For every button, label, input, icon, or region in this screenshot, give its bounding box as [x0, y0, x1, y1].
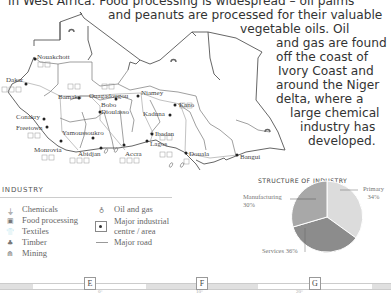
city-label-freetown: Freetown [16, 124, 42, 132]
city-label-yamoussoukro: Yamoussoukro [62, 129, 104, 137]
major-road-icon [96, 242, 108, 243]
pie-label-primary: Primary 34% [363, 185, 384, 200]
mining-icon: ⋒ [7, 250, 13, 258]
pie-label-manufacturing: Manufacturing 30% [243, 193, 282, 208]
city-label-niamey: Niamey [141, 89, 163, 97]
legend: INDUSTRY [0, 186, 172, 198]
industry-pie-chart [290, 180, 365, 255]
legend-item-mining: Mining [22, 248, 47, 258]
city-label-bangui: Bangui [240, 153, 260, 161]
textiles-icon: 👕 [6, 228, 15, 236]
longitude-tick: 0° [98, 289, 103, 294]
city-label-bamako: Bamako [58, 93, 81, 101]
city-label-kano: Kano [179, 101, 194, 109]
industrial-centre-icon [95, 221, 107, 232]
city-label-lagos: Lagos [150, 140, 167, 148]
legend-item-oil-gas: Oil and gas [114, 204, 153, 214]
grid-box-g: G [309, 277, 321, 290]
city-label-nouakchott: Nouakchott [37, 53, 70, 61]
longitude-tick: 10° [196, 289, 203, 294]
food-processing-icon: ▣ [7, 217, 14, 225]
grid-box-e: E [84, 277, 96, 290]
chemicals-icon: ⏚ [7, 206, 14, 216]
pie-label-services: Services 36% [262, 247, 298, 255]
legend-item-industrial-centre: Major industrial centre / area [114, 216, 169, 236]
oil-gas-icon: ♁ [99, 206, 104, 214]
city-label-conakry: Conakry [16, 113, 40, 121]
legend-item-textiles: Textiles [22, 226, 49, 236]
city-label-kaduna: Kaduna [143, 110, 165, 118]
city-label-ibadan: Ibadan [155, 130, 174, 138]
legend-item-timber: Timber [22, 237, 47, 247]
city-label-dakar: Dakar [6, 76, 23, 84]
city-label-douala: Douala [189, 150, 209, 158]
city-label-bobo-dioulasso: Bobo Dioulasso [101, 102, 135, 116]
legend-item-food-processing: Food processing [22, 215, 78, 225]
legend-item-chemicals: Chemicals [22, 204, 58, 214]
city-label-abidjan: Abidjan [78, 150, 101, 158]
city-label-monrovia: Monrovia [34, 146, 62, 154]
legend-item-major-road: Major road [114, 237, 152, 247]
longitude-tick: 20° [296, 289, 303, 294]
city-label-accra: Accra [125, 150, 142, 158]
legend-title: INDUSTRY [0, 186, 172, 198]
city-label-ouagadougou: Ouagadougou [89, 92, 128, 100]
timber-icon: ♣ [7, 239, 13, 247]
